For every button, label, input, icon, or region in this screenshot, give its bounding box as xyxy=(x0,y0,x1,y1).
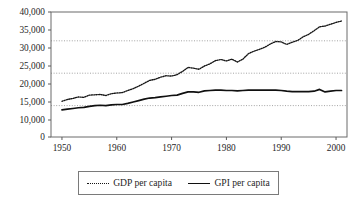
chart-legend: GDP per capita GPI per capita xyxy=(78,171,279,195)
x-axis-label-1990: 1990 xyxy=(272,143,291,153)
plot-border xyxy=(51,12,347,137)
plot-area: 010,00015,00020,00025,00030,00035,00040,… xyxy=(0,0,355,165)
x-axis-label-1980: 1980 xyxy=(217,143,236,153)
series-line-gdp-per-capita xyxy=(62,21,342,101)
legend-item-gpi: GPI per capita xyxy=(188,178,269,188)
legend-label-gdp: GDP per capita xyxy=(113,178,172,188)
y-axis-labels: 010,00015,00020,00025,00030,00035,00040,… xyxy=(19,7,45,142)
legend-item-gdp: GDP per capita xyxy=(87,178,172,188)
y-axis-label-25000: 25,000 xyxy=(19,61,45,71)
y-axis-label-20000: 20,000 xyxy=(19,79,45,89)
line-chart-svg: 010,00015,00020,00025,00030,00035,00040,… xyxy=(0,0,355,165)
series-line-gpi-per-capita xyxy=(62,89,342,110)
x-axis-label-2000: 2000 xyxy=(327,143,346,153)
gridlines xyxy=(51,41,347,106)
dotted-line-icon xyxy=(87,179,109,187)
y-axis-label-15000: 15,000 xyxy=(19,97,45,107)
y-axis-label-30000: 30,000 xyxy=(19,43,45,53)
y-axis-label-10000: 10,000 xyxy=(19,115,45,125)
x-axis-label-1960: 1960 xyxy=(107,143,126,153)
legend-label-gpi: GPI per capita xyxy=(214,178,269,188)
y-axis-label-0: 0 xyxy=(40,132,45,142)
x-axis-labels: 195019601970198019902000 xyxy=(53,143,346,153)
chart-figure: 010,00015,00020,00025,00030,00035,00040,… xyxy=(0,0,355,203)
x-axis-label-1950: 1950 xyxy=(53,143,72,153)
y-axis-label-35000: 35,000 xyxy=(19,25,45,35)
plot-frame xyxy=(51,12,347,137)
y-axis-label-40000: 40,000 xyxy=(19,7,45,17)
x-axis-label-1970: 1970 xyxy=(162,143,181,153)
solid-line-icon xyxy=(188,179,210,187)
